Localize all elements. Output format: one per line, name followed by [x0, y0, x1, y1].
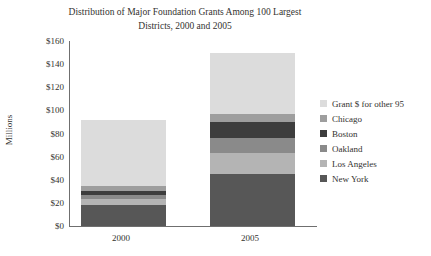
chart-title-line-2: Districts, 2000 and 2005	[40, 19, 330, 33]
legend-item-grant-for-other-95[interactable]: Grant $ for other 95	[320, 96, 428, 111]
bar-segment-new-york[interactable]	[81, 205, 166, 226]
bar-segment-boston[interactable]	[210, 122, 295, 138]
legend-label: Los Angeles	[332, 159, 377, 169]
chart-title: Distribution of Major Foundation Grants …	[40, 5, 330, 33]
legend-label: New York	[332, 174, 369, 184]
y-axis-tick-0: $0	[4, 222, 64, 231]
legend-label: Oakland	[332, 144, 363, 154]
bar-segment-oakland[interactable]	[210, 138, 295, 153]
legend-swatch-icon	[320, 100, 327, 107]
y-axis-tick-40: $40	[4, 176, 64, 185]
legend-label: Chicago	[332, 114, 362, 124]
y-axis-tick-20: $20	[4, 199, 64, 208]
legend-label: Boston	[332, 129, 358, 139]
legend-item-chicago[interactable]: Chicago	[320, 111, 428, 126]
bar-2005[interactable]	[210, 53, 295, 226]
bar-2000[interactable]	[81, 120, 166, 226]
y-axis-tick-100: $100	[4, 106, 64, 115]
bar-segment-los-angeles[interactable]	[210, 153, 295, 174]
bar-segment-grant-for-other-95[interactable]	[210, 53, 295, 114]
y-axis-tick-60: $60	[4, 153, 64, 162]
chart-legend: Grant $ for other 95ChicagoBostonOakland…	[320, 96, 428, 186]
bar-segment-grant-for-other-95[interactable]	[81, 120, 166, 186]
x-axis-tick-2005: 2005	[205, 233, 295, 243]
legend-swatch-icon	[320, 145, 327, 152]
y-axis-tick-160: $160	[4, 37, 64, 46]
plot-area	[69, 41, 316, 226]
legend-swatch-icon	[320, 130, 327, 137]
legend-label: Grant $ for other 95	[332, 99, 404, 109]
bar-segment-chicago[interactable]	[210, 114, 295, 122]
y-axis-tick-120: $120	[4, 83, 64, 92]
legend-swatch-icon	[320, 175, 327, 182]
legend-item-new-york[interactable]: New York	[320, 171, 428, 186]
legend-item-boston[interactable]: Boston	[320, 126, 428, 141]
legend-item-oakland[interactable]: Oakland	[320, 141, 428, 156]
y-axis-tick-140: $140	[4, 60, 64, 69]
chart-title-line-1: Distribution of Major Foundation Grants …	[40, 5, 330, 19]
x-axis-line	[69, 226, 317, 227]
x-axis-tick-2000: 2000	[76, 233, 166, 243]
bar-segment-new-york[interactable]	[210, 174, 295, 226]
legend-item-los-angeles[interactable]: Los Angeles	[320, 156, 428, 171]
legend-swatch-icon	[320, 115, 327, 122]
y-axis-tick-80: $80	[4, 130, 64, 139]
y-axis-tick-labels: $0$20$40$60$80$100$120$140$160	[0, 41, 64, 227]
legend-swatch-icon	[320, 160, 327, 167]
